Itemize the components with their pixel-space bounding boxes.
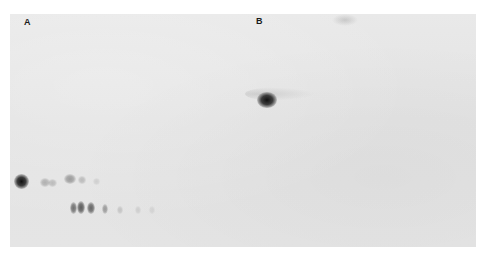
panel-a-upper-band-1 (64, 174, 76, 184)
panel-a-faint-spot-2 (48, 179, 57, 187)
panel-a-upper-band-2 (78, 176, 86, 184)
panel-label-b: B (256, 16, 263, 26)
panel-a-lower-band-3 (87, 202, 95, 214)
panel-a-lower-band-1 (70, 202, 77, 214)
panel-b-top-smudge (332, 14, 358, 26)
panel-a-lower-band-2 (77, 201, 85, 214)
panel-a-lower-band-7 (149, 206, 155, 214)
panel-a-lower-band-6 (135, 206, 141, 214)
panel-a-upper-band-3 (93, 178, 100, 185)
panel-b-main-spot (257, 92, 277, 108)
panel-b-tail-streak (245, 87, 315, 101)
panel-a-lower-band-4 (102, 204, 108, 214)
panel-a-lower-band-5 (117, 206, 123, 214)
panel-a-origin-spot (14, 174, 29, 189)
panel-label-a: A (24, 17, 31, 27)
